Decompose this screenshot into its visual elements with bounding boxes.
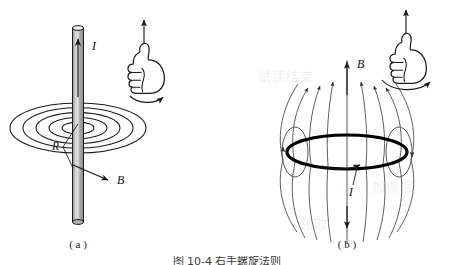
field-line xyxy=(397,160,414,232)
field-line xyxy=(374,86,385,164)
field-line xyxy=(327,165,331,242)
label-current-b-leader xyxy=(353,168,357,185)
field-line xyxy=(389,163,402,238)
panel-b-caption: ( b ) xyxy=(338,238,357,251)
current-carrying-rod xyxy=(73,26,84,225)
field-line xyxy=(377,164,385,240)
curl-direction-arrow-a xyxy=(130,96,163,102)
panel-a-caption: ( a ) xyxy=(69,238,87,251)
label-field-a: B xyxy=(117,173,125,187)
field-line xyxy=(292,163,305,238)
field-line xyxy=(363,165,367,242)
label-radius: R xyxy=(51,140,59,152)
field-line xyxy=(293,88,308,163)
thumbs-up-hand-icon-b xyxy=(382,10,430,90)
field-line xyxy=(327,82,333,165)
thumbs-up-hand-icon-a xyxy=(128,20,164,102)
figure-title: 图 10-4 右手螺旋法则 xyxy=(0,256,454,265)
field-line xyxy=(309,86,320,164)
label-current-a: I xyxy=(91,39,97,53)
label-field-b: B xyxy=(357,57,365,71)
field-line xyxy=(361,82,367,165)
field-line xyxy=(386,88,401,163)
label-current-b: I xyxy=(348,186,354,198)
panel-a: I R B ( a ) xyxy=(10,20,164,251)
physics-figure: I R B ( a ) xyxy=(0,0,454,265)
panel-b: B I ( b ) xyxy=(280,10,430,251)
field-line xyxy=(280,160,297,232)
field-line xyxy=(309,164,317,240)
figure-title-strip: 图 10-4 右手螺旋法则 xyxy=(0,256,454,265)
